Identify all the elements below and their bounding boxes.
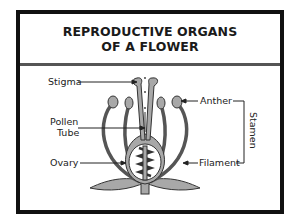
anther-outer-right (172, 96, 182, 108)
style-left (133, 78, 145, 140)
flower-illustration (0, 0, 299, 221)
label-filament: Filament (199, 157, 240, 168)
label-stamen: Stamen (248, 112, 259, 149)
label-pollen-tube-line1: Pollen (50, 116, 78, 127)
label-pollen-tube-line2: Tube (57, 127, 79, 138)
ovule-column (143, 146, 147, 180)
anther-outer-left (108, 96, 118, 108)
label-anther: Anther (200, 95, 232, 106)
anther-inner-left (125, 97, 133, 109)
stamen-bracket (233, 101, 244, 163)
style-right (146, 78, 158, 140)
anther-inner-right (157, 97, 165, 109)
label-ovary: Ovary (50, 157, 78, 168)
label-stigma: Stigma (48, 76, 82, 87)
